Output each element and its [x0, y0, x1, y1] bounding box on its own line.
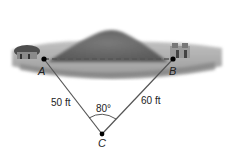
- point-c: [100, 132, 105, 137]
- label-b: B: [169, 65, 176, 77]
- label-c: C: [98, 137, 106, 149]
- point-b: [170, 56, 175, 61]
- label-a: A: [37, 65, 45, 77]
- triangle-diagram: A B C 50 ft 60 ft 80°: [0, 0, 231, 154]
- label-side-bc: 60 ft: [141, 95, 161, 106]
- point-a: [41, 56, 46, 61]
- label-angle-c: 80°: [96, 103, 111, 114]
- label-side-ac: 50 ft: [51, 97, 71, 108]
- left-house-icon: [14, 45, 40, 59]
- angle-c-arc: [89, 114, 116, 119]
